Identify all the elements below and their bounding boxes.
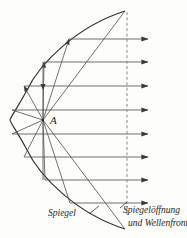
incident-ray-group [12, 39, 70, 203]
caption-group: Spiegel Spiegelöffnung und Wellenfront [48, 205, 187, 228]
leader-line-spiegel [89, 206, 99, 214]
parabolic-mirror-figure: A Spiegel Spiegelöffnung und Wellenfront [0, 0, 187, 238]
reflected-ray-group [12, 39, 148, 203]
focus-point-marker [42, 119, 44, 121]
incident-ray-8 [43, 120, 70, 203]
focus-point-label: A [49, 114, 57, 126]
focus-chord-upper [43, 11, 125, 120]
caption-spiegel: Spiegel [48, 208, 76, 218]
caption-leader-group [89, 202, 127, 214]
incident-ray-1 [43, 39, 69, 120]
incident-ray-5 [12, 120, 43, 134]
focus-vertical-arrowhead [40, 84, 45, 90]
diagram-canvas: A Spiegel Spiegelöffnung und Wellenfront [0, 0, 187, 238]
incident-ray-6 [24, 120, 43, 157]
caption-aperture-line2: und Wellenfront [128, 218, 187, 228]
caption-aperture-line1: Spiegelöffnung [123, 205, 180, 215]
